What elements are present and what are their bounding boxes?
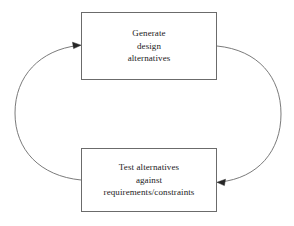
node-test-line-3: requirements/constraints — [104, 186, 195, 199]
node-test-alternatives: Test alternatives against requirements/c… — [81, 148, 217, 212]
node-test-line-2: against — [136, 174, 162, 187]
node-generate-design-alternatives: Generate design alternatives — [81, 12, 217, 80]
diagram-canvas: Generate design alternatives Test altern… — [0, 0, 294, 226]
edge-test-to-generate — [15, 42, 81, 180]
node-generate-line-2: design — [137, 40, 161, 53]
node-test-line-1: Test alternatives — [119, 161, 179, 174]
edge-generate-to-test-path — [217, 46, 281, 182]
arrowhead-into-generate-icon — [73, 42, 82, 48]
edge-generate-to-test — [217, 46, 281, 186]
node-generate-line-1: Generate — [132, 27, 165, 40]
node-generate-line-3: alternatives — [128, 52, 171, 65]
arrowhead-into-test-icon — [217, 179, 226, 185]
edge-test-to-generate-path — [15, 46, 81, 181]
